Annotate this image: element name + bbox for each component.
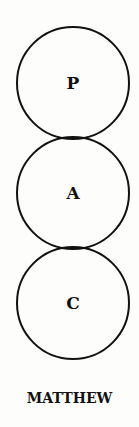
circle-letter: C [66, 293, 80, 313]
diagram-caption: MATTHEW [0, 390, 139, 406]
circle-c: C [16, 246, 130, 360]
circle-letter: P [67, 73, 80, 93]
circle-letter: A [66, 183, 79, 203]
circle-a: A [16, 136, 130, 250]
circle-p: P [16, 26, 130, 140]
